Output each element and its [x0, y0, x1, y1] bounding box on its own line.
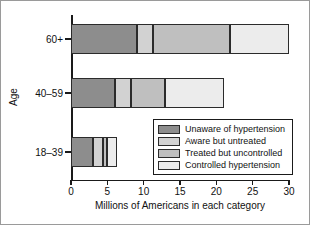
- stacked-bar: [71, 24, 289, 54]
- bar-segment: [115, 78, 132, 108]
- bar-segment: [71, 78, 115, 108]
- x-axis-tick-label: 10: [138, 186, 149, 197]
- legend-item: Aware but untreated: [158, 135, 288, 147]
- legend-item: Treated but uncontrolled: [158, 147, 288, 159]
- legend-label: Unaware of hypertension: [185, 125, 285, 134]
- x-axis-tick: [107, 180, 109, 185]
- y-axis-category-label: 18–39: [35, 147, 63, 158]
- chart-legend: Unaware of hypertensionAware but untreat…: [153, 119, 293, 175]
- bar-segment: [71, 137, 93, 167]
- bar-segment: [71, 24, 137, 54]
- x-axis-tick-label: 30: [283, 186, 294, 197]
- legend-swatch: [158, 137, 180, 146]
- y-axis-tick: [65, 151, 71, 153]
- plot-area: 05101520253060+40–5918–39 Age Millions o…: [1, 1, 310, 225]
- legend-label: Treated but uncontrolled: [185, 149, 282, 158]
- x-axis-tick: [288, 180, 290, 185]
- bar-segment: [153, 24, 230, 54]
- x-axis-tick-label: 0: [68, 186, 74, 197]
- x-axis-tick: [252, 180, 254, 185]
- x-axis-tick-label: 5: [105, 186, 111, 197]
- y-axis-tick: [65, 38, 71, 40]
- x-axis-tick: [216, 180, 218, 185]
- legend-item: Controlled hypertension: [158, 159, 288, 171]
- legend-item: Unaware of hypertension: [158, 123, 288, 135]
- x-axis-tick-label: 15: [174, 186, 185, 197]
- bar-segment: [230, 24, 289, 54]
- x-axis-tick: [143, 180, 145, 185]
- y-axis-tick: [65, 92, 71, 94]
- chart-frame: 05101520253060+40–5918–39 Age Millions o…: [0, 0, 310, 225]
- bar-segment: [131, 78, 164, 108]
- x-axis-tick-label: 20: [211, 186, 222, 197]
- x-axis-tick-label: 25: [247, 186, 258, 197]
- bar-segment: [107, 137, 117, 167]
- legend-label: Aware but untreated: [185, 137, 266, 146]
- x-axis-title: Millions of Americans in each category: [71, 200, 289, 211]
- legend-swatch: [158, 149, 180, 158]
- legend-label: Controlled hypertension: [185, 161, 280, 170]
- bar-segment: [93, 137, 103, 167]
- x-axis-tick: [179, 180, 181, 185]
- bar-segment: [137, 24, 153, 54]
- legend-swatch: [158, 161, 180, 170]
- legend-swatch: [158, 125, 180, 134]
- x-axis-tick: [70, 180, 72, 185]
- bar-segment: [165, 78, 225, 108]
- y-axis-title: Age: [8, 88, 19, 106]
- stacked-bar: [71, 78, 289, 108]
- y-axis-category-label: 60+: [46, 34, 63, 45]
- y-axis-category-label: 40–59: [35, 88, 63, 99]
